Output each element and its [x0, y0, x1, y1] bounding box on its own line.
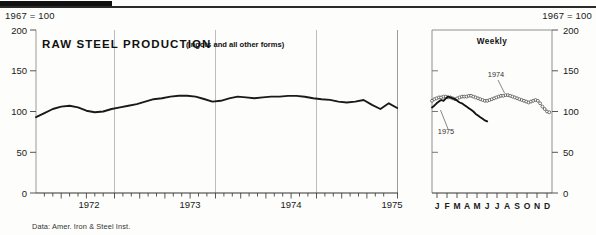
weekly-annotation-1975: 1975	[438, 110, 454, 136]
weekly-ytick-100: 100	[563, 106, 579, 117]
main-xtick-1972: 1972	[78, 199, 99, 210]
weekly-left-ticks	[432, 71, 438, 153]
chart-figure: 1967 = 100 1967 = 100 200 150 100 50 0	[0, 0, 596, 235]
weekly-month-dec: D	[544, 201, 550, 211]
main-y-axis	[30, 30, 36, 193]
weekly-month-sep: S	[514, 201, 520, 211]
weekly-month-oct: O	[524, 201, 531, 211]
weekly-y-axis	[552, 30, 558, 193]
main-ytick-200: 200	[11, 25, 27, 36]
main-ytick-150: 150	[11, 65, 27, 76]
source-note: Data: Amer. Iron & Steel Inst.	[32, 222, 130, 231]
main-xtick-1974: 1974	[280, 199, 301, 210]
main-xtick-1975: 1975	[381, 199, 402, 210]
main-x-axis	[36, 193, 398, 199]
main-year-gridlines	[115, 30, 398, 193]
weekly-month-jul: J	[495, 201, 500, 211]
main-chart-subtitle: (ingots and all other forms)	[186, 40, 285, 49]
weekly-ytick-0: 0	[563, 188, 568, 199]
main-ytick-100: 100	[11, 106, 27, 117]
weekly-ytick-200: 200	[563, 25, 579, 36]
weekly-month-feb: F	[444, 201, 449, 211]
weekly-ytick-150: 150	[563, 65, 579, 76]
weekly-month-jan: J	[435, 201, 440, 211]
weekly-y-tick-labels: 200 150 100 50 0	[563, 25, 579, 199]
weekly-chart-panel: 200 150 100 50 0	[424, 22, 596, 222]
weekly-label-1975: 1975	[438, 127, 454, 136]
main-ytick-0: 0	[22, 188, 27, 199]
main-year-labels: 1972 1973 1974 1975	[78, 199, 402, 210]
top-divider-rule	[0, 6, 596, 8]
main-xtick-1973: 1973	[179, 199, 200, 210]
main-y-tick-labels: 200 150 100 50 0	[11, 25, 27, 199]
main-ytick-50: 50	[16, 147, 27, 158]
weekly-x-ticks	[437, 193, 547, 198]
weekly-month-labels: J F M A M J J A S O N D	[435, 201, 550, 211]
weekly-frame	[432, 30, 552, 193]
weekly-month-jun: J	[485, 201, 490, 211]
weekly-month-nov: N	[534, 201, 540, 211]
weekly-panel-title: Weekly	[477, 37, 508, 46]
weekly-ytick-50: 50	[563, 147, 574, 158]
weekly-month-aug: A	[504, 201, 510, 211]
weekly-annotation-1974: 1974	[488, 70, 505, 93]
main-chart-panel: 200 150 100 50 0	[0, 22, 420, 222]
main-series-line	[36, 96, 397, 117]
weekly-month-mar: M	[453, 201, 460, 211]
index-note-left: 1967 = 100	[5, 10, 55, 21]
weekly-label-1974: 1974	[488, 70, 504, 79]
weekly-month-may: M	[473, 201, 480, 211]
weekly-month-apr: A	[464, 201, 470, 211]
index-note-right: 1967 = 100	[542, 10, 592, 21]
